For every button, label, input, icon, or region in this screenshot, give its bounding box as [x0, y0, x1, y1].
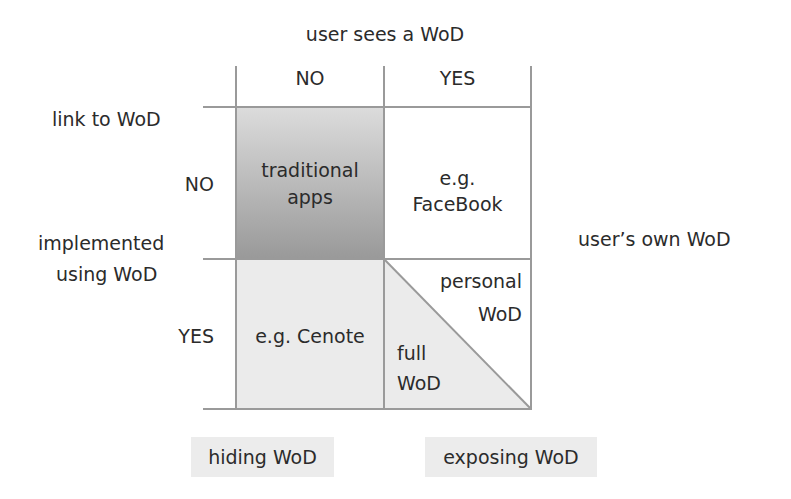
row-group-label-line1: implemented — [38, 231, 164, 255]
side-label-users-own-wod: user’s own WoD — [578, 227, 731, 251]
tag-exposing-wod: exposing WoD — [425, 437, 597, 477]
column-axis-title: user sees a WoD — [260, 22, 510, 46]
row-axis-title: link to WoD — [52, 107, 161, 131]
cell-facebook-line1: e.g. — [384, 166, 531, 190]
cell-traditional-line2: apps — [236, 185, 384, 209]
row-header-no: NO — [150, 172, 214, 196]
row-header-yes: YES — [150, 324, 214, 348]
column-header-no: NO — [236, 66, 384, 90]
grid-vline-middle — [383, 66, 385, 410]
row-group-label-line2: using WoD — [56, 262, 157, 286]
tag-hiding-wod: hiding WoD — [191, 437, 334, 477]
grid-hline-top — [203, 106, 532, 108]
cell-full-line2: WoD — [397, 371, 441, 395]
grid-vline-left — [235, 66, 237, 410]
column-header-yes: YES — [384, 66, 531, 90]
grid-vline-right — [530, 66, 532, 410]
cell-personal-line1: personal — [400, 269, 522, 293]
cell-cenote-text: e.g. Cenote — [236, 324, 384, 348]
cell-traditional-line1: traditional — [236, 158, 384, 182]
grid-hline-bottom — [203, 408, 532, 410]
cell-full-line1: full — [397, 341, 426, 365]
cell-facebook-line2: FaceBook — [384, 192, 531, 216]
cell-traditional-apps — [236, 107, 384, 259]
cell-personal-line2: WoD — [400, 302, 522, 326]
grid-hline-middle — [203, 258, 532, 260]
